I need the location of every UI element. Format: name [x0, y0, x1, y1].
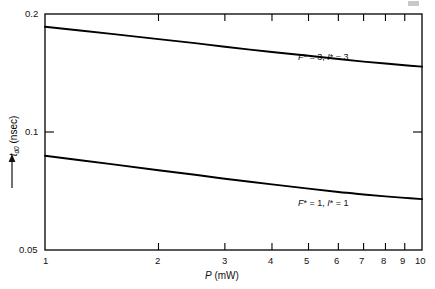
- data-curve-upper: [45, 27, 422, 67]
- figure-container: td0 (nsec) 0.2 0.1 0.05 1 2 3 4 5 6 7 8 …: [0, 0, 435, 289]
- x-axis-ticks: [158, 14, 404, 250]
- axis-frame: [45, 14, 422, 250]
- plot-area: [0, 0, 435, 289]
- data-curve-lower: [45, 156, 422, 199]
